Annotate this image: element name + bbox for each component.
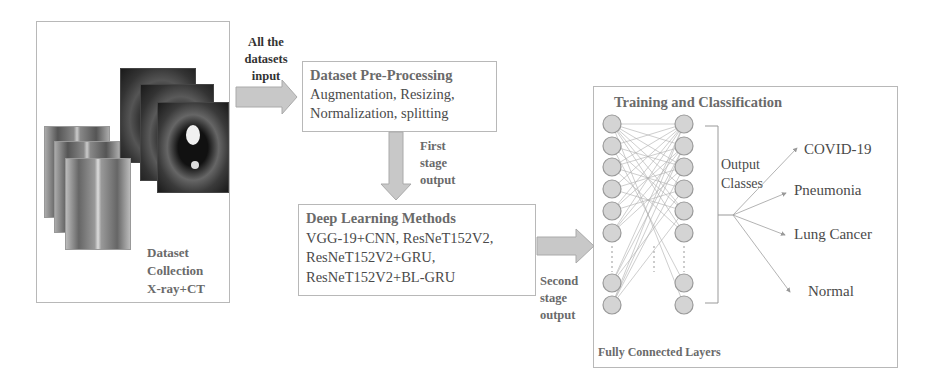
hidden-layer-nodes xyxy=(675,115,693,314)
input-layer-nodes xyxy=(603,115,621,314)
network-connections xyxy=(612,124,684,305)
diagram-graphics xyxy=(0,0,935,387)
second-stage-arrow-icon xyxy=(537,229,594,263)
class-arrows xyxy=(733,148,797,292)
first-stage-arrow-icon xyxy=(381,132,411,200)
output-bracket-icon xyxy=(705,126,733,303)
input-arrow-icon xyxy=(236,80,297,114)
